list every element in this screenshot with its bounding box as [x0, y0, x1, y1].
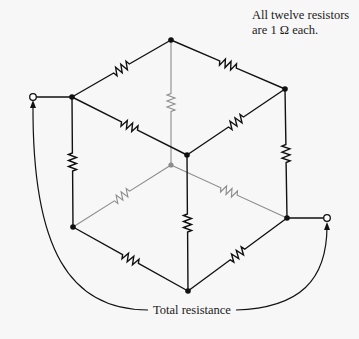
- hidden-edges: [73, 40, 287, 227]
- resistor-front-right-top: [187, 89, 285, 155]
- resistor-back-left-bottom: [73, 165, 171, 227]
- note-line-2: are 1 Ω each.: [252, 23, 349, 38]
- resistor-left-top-top: [72, 40, 171, 97]
- node-left-bottom: [70, 224, 76, 230]
- note-line-1: All twelve resistors: [252, 8, 349, 23]
- resistor-front-bottom: [183, 155, 191, 291]
- total-resistance-arrows: [33, 104, 327, 310]
- cube-circuit-drawing: [0, 0, 359, 339]
- resistor-top-right-top: [171, 40, 285, 89]
- terminal-left-circle: [30, 94, 37, 101]
- node-front: [184, 152, 190, 158]
- total-resistance-label: Total resistance: [153, 303, 231, 318]
- node-right-bottom: [284, 215, 290, 221]
- node-right-top: [282, 86, 288, 92]
- resistor-cube-diagram: All twelve resistors are 1 Ω each. Total…: [0, 0, 359, 339]
- resistor-back-right-bottom: [171, 165, 287, 218]
- junction-nodes: [69, 37, 290, 294]
- resistor-bottom-right-bottom: [188, 218, 287, 291]
- resistor-value-note: All twelve resistors are 1 Ω each.: [252, 8, 349, 38]
- node-left-top: [69, 94, 75, 100]
- node-top: [168, 37, 174, 43]
- terminal-right-circle: [324, 215, 331, 222]
- resistor-left-top-left-bottom: [68, 97, 76, 227]
- left-arrow-curve: [33, 104, 148, 310]
- node-bottom: [185, 288, 191, 294]
- node-back: [168, 162, 173, 167]
- front-edges: [68, 40, 290, 291]
- resistor-right-top-right-bottom: [282, 89, 290, 218]
- right-arrow-curve: [236, 226, 327, 310]
- resistor-left-bottom-bottom: [73, 227, 188, 291]
